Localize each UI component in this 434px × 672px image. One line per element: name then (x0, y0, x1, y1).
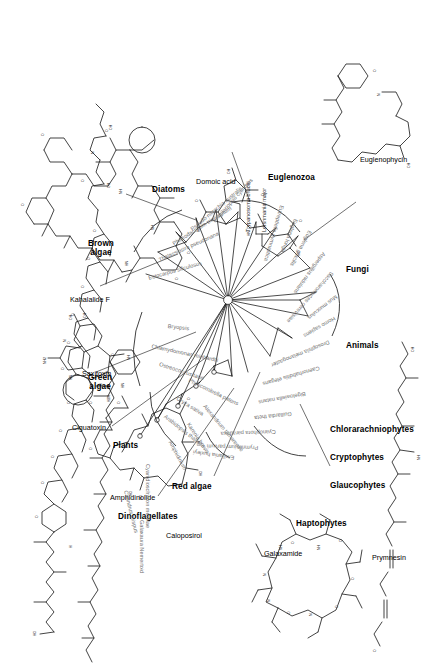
svg-text:NH: NH (151, 225, 155, 230)
structure-euglenophycin: NO OH (322, 42, 430, 172)
svg-text:N: N (309, 613, 313, 616)
taxon-label-t32: Prymnesium parvum (207, 443, 258, 450)
svg-text:O: O (187, 397, 191, 400)
taxon-label-t01: Galaxaura Nemertoid (138, 520, 144, 573)
svg-text:OH: OH (407, 162, 411, 168)
svg-text:O: O (339, 539, 343, 542)
svg-text:N: N (267, 599, 271, 602)
svg-text:H2N: H2N (107, 395, 111, 402)
compound-label-kahalalide-f: Kahalalide F (70, 296, 110, 303)
svg-text:O: O (89, 401, 93, 404)
group-label-cryptophytes: Cryptophytes (330, 454, 384, 462)
svg-text:O: O (299, 219, 303, 222)
svg-text:OH: OH (227, 168, 231, 174)
root-node (224, 296, 233, 305)
group-label-chlorarachniophytes: Chlorarachniophytes (330, 426, 414, 434)
compound-label-saxitoxin: Saxitoxin (82, 370, 111, 377)
svg-text:HO: HO (33, 631, 37, 636)
svg-text:O: O (89, 447, 93, 450)
svg-text:NH: NH (317, 545, 321, 550)
group-label-animals: Animals (346, 342, 379, 350)
svg-text:O: O (373, 69, 377, 72)
rotated-stage: HOO OO OO OO OO OO OHOH HH O (0, 0, 434, 672)
svg-text:NH2: NH2 (43, 357, 47, 364)
svg-text:O: O (41, 481, 45, 484)
svg-text:HN: HN (125, 261, 129, 266)
svg-text:OH: OH (83, 312, 87, 318)
svg-text:N: N (377, 93, 381, 96)
compound-label-caloposirol: Caloposirol (166, 532, 202, 539)
group-label-plants: Plants (113, 442, 138, 450)
svg-text:NH: NH (417, 455, 421, 460)
svg-text:O: O (373, 649, 377, 652)
svg-text:O: O (195, 199, 199, 202)
structure-prymnesin: ONH OH (366, 332, 434, 652)
svg-text:H: H (69, 545, 73, 548)
group-label-fungi: Fungi (346, 266, 369, 274)
structure-kahalalide-f: OO NHNH HNO OO NO (18, 114, 190, 290)
compound-label-prymnesin: Prymnesin (372, 554, 406, 561)
group-label-brown-algae: Brown algae (88, 240, 114, 257)
svg-text:O: O (105, 129, 109, 132)
svg-text:O: O (35, 515, 39, 518)
compound-label-domoic-acid: Domoic acid (196, 178, 236, 185)
svg-text:O: O (187, 251, 191, 254)
taxon-label-t03: Cyanidioschyzon merolae (144, 464, 150, 528)
svg-text:N: N (263, 573, 267, 576)
svg-text:OH: OH (69, 314, 73, 320)
svg-text:O: O (291, 541, 295, 544)
figure-canvas: HOO OO OO OO OO OO OHOH HH O (0, 0, 434, 672)
group-label-diatoms: Diatoms (152, 186, 185, 194)
svg-text:O: O (335, 605, 339, 608)
group-label-euglenozoa: Euglenozoa (268, 174, 315, 182)
compound-label-ciguatoxin: Ciguatoxin (72, 424, 106, 431)
svg-text:NH: NH (127, 355, 131, 360)
svg-text:O: O (81, 179, 85, 182)
taxon-label-t19: Leishmania major (262, 188, 268, 232)
taxon-label-t31: Cyanophora paradoxa (220, 428, 276, 436)
group-label-red-algae: Red algae (172, 483, 212, 491)
svg-text:N: N (91, 151, 95, 154)
compound-label-galaxamide: Galaxamide (264, 550, 302, 557)
svg-text:HN: HN (69, 375, 73, 380)
group-label-haptophytes: Haptophytes (296, 520, 347, 528)
svg-text:O: O (175, 277, 179, 280)
svg-text:N: N (63, 339, 67, 342)
clade-animals (270, 328, 292, 356)
group-label-glaucophytes: Glaucophytes (330, 482, 385, 490)
svg-text:O: O (287, 611, 291, 614)
svg-text:O: O (51, 455, 55, 458)
taxon-label-t18: Trypanosoma brucei (246, 181, 252, 232)
svg-text:HN: HN (121, 383, 125, 388)
compound-label-euglenophycin: Euglenophycin (360, 156, 407, 163)
svg-text:O: O (351, 577, 355, 580)
svg-text:O: O (59, 429, 63, 432)
svg-text:HO: HO (199, 471, 203, 476)
svg-text:O: O (21, 203, 25, 206)
structure-galaxamide: OO OO ON NNH NNH (238, 512, 364, 638)
svg-text:NH: NH (119, 189, 123, 194)
svg-text:O: O (41, 133, 45, 136)
svg-text:OH: OH (411, 346, 415, 352)
